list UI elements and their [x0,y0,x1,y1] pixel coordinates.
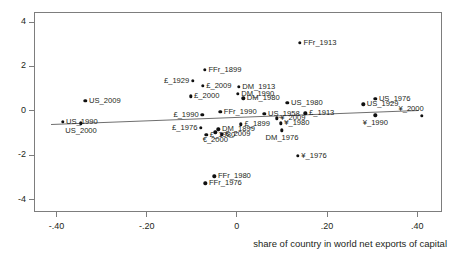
scatter-point-label: £_1990 [173,111,198,119]
scatter-point[interactable] [362,103,365,106]
scatter-point[interactable] [280,128,283,131]
scatter-point-label: ¥_1976 [301,152,326,160]
scatter-point[interactable] [201,113,204,116]
scatter-point[interactable] [199,126,202,129]
y-axis-tick-label: 0 [0,106,26,115]
x-axis-tick [327,212,328,217]
scatter-point[interactable] [84,99,87,102]
x-axis-tick [417,212,418,217]
scatter-point-label: US_2009 [89,97,121,105]
scatter-point-label: ¥_2009 [280,114,305,122]
scatter-point-label: £_1976 [172,124,197,132]
y-axis-tick-label: -2 [0,150,26,159]
x-axis-tick-label: .40 [397,221,437,231]
x-axis-tick-label: -.20 [127,221,167,231]
scatter-point-label: £_1899 [245,120,270,128]
x-axis-tick [56,212,57,217]
scatter-point[interactable] [219,110,222,113]
scatter-point-label: FFr_1976 [209,179,242,187]
scatter-point-label: US_1980 [291,99,323,107]
scatter-point[interactable] [189,95,192,98]
y-axis-tick-label: 4 [0,17,26,26]
x-axis-tick-label: 0 [217,221,257,231]
scatter-point[interactable] [286,101,289,104]
scatter-point[interactable] [279,122,282,125]
scatter-point-label: £_1929 [164,77,189,85]
scatter-point-label: €_2009 [225,130,250,138]
chart-canvas: 420-2-4 US_2009US_1990US_2000FFr_1899£_1… [0,0,455,264]
scatter-point[interactable] [296,154,299,157]
scatter-point[interactable] [298,41,301,44]
x-axis-tick [236,212,237,217]
x-axis-tick [146,212,147,217]
scatter-point[interactable] [374,114,377,117]
scatter-point-label: FFr_1913 [304,39,337,47]
x-axis-tick-label: .20 [307,221,347,231]
scatter-point-label: DM_1976 [266,134,299,142]
scatter-point-label: £_2009 [206,82,231,90]
scatter-point[interactable] [275,116,278,119]
scatter-point-label: ¥_1990 [363,119,388,127]
scatter-point-label: US_1929 [367,100,399,108]
scatter-point[interactable] [236,92,239,95]
scatter-point[interactable] [204,182,207,185]
scatter-point[interactable] [242,96,245,99]
x-axis-tick-label: -.40 [37,221,77,231]
scatter-point[interactable] [237,85,240,88]
scatter-point-label: FFr_1899 [208,66,241,74]
scatter-point-label: ¥_2000 [398,105,423,113]
y-axis-tick-label: 2 [0,61,26,70]
y-axis-tick-label: -4 [0,195,26,204]
scatter-point-label: £_2000 [194,92,219,100]
scatter-point-label: FFr_1990 [224,108,257,116]
x-axis-title: share of country in world net exports of… [0,238,447,249]
scatter-point-label: £_1913 [309,109,334,117]
scatter-point-label: DM_1980 [247,94,280,102]
scatter-point[interactable] [203,68,206,71]
scatter-point[interactable] [201,84,204,87]
scatter-point[interactable] [420,114,423,117]
scatter-point[interactable] [191,79,194,82]
plot-frame: US_2009US_1990US_2000FFr_1899£_1929£_200… [34,12,442,212]
scatter-point-label: US_2000 [65,127,97,135]
